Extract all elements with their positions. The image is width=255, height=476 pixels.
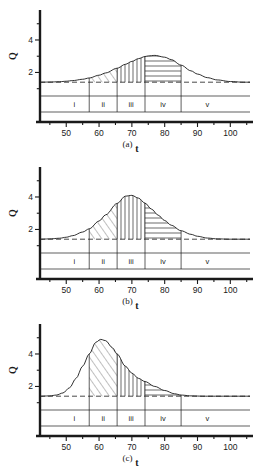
region-label-i: i [74, 100, 76, 109]
x-tick-label: 50 [62, 128, 72, 138]
region-label-ii: ii [101, 257, 105, 266]
region-label-ii: ii [101, 100, 105, 109]
region-iv-hatch [145, 55, 181, 82]
region-label-iv: iv [160, 100, 166, 109]
chart-panel-b: iiiiiiivv245060708090100tQ [0, 157, 255, 315]
y-tick-label: 4 [28, 349, 33, 359]
y-tick-label: 2 [28, 67, 33, 77]
region-label-iv: iv [160, 257, 166, 266]
y-axis-label: Q [7, 366, 18, 374]
region-label-iv: iv [160, 414, 166, 423]
x-tick-label: 60 [94, 442, 104, 452]
y-tick-label: 2 [28, 381, 33, 391]
x-tick-label: 50 [62, 442, 72, 452]
panel-caption-b: (b) [0, 296, 255, 306]
x-tick-label: 100 [223, 128, 237, 138]
x-tick-label: 100 [223, 442, 237, 452]
panel-caption-c: (c) [0, 453, 255, 463]
x-tick-label: 50 [62, 285, 72, 295]
y-axis-label: Q [7, 52, 18, 60]
y-tick-label: 4 [28, 192, 33, 202]
x-tick-label: 80 [160, 442, 170, 452]
x-tick-label: 90 [193, 285, 203, 295]
x-tick-label: 60 [94, 128, 104, 138]
x-tick-label: 70 [127, 442, 137, 452]
y-tick-label: 4 [28, 35, 33, 45]
x-tick-label: 60 [94, 285, 104, 295]
region-label-i: i [74, 414, 76, 423]
region-label-i: i [74, 257, 76, 266]
x-tick-label: 80 [160, 128, 170, 138]
x-tick-label: 80 [160, 285, 170, 295]
x-tick-label: 90 [193, 128, 203, 138]
region-label-iii: iii [129, 414, 134, 423]
chart-svg: iiiiiiivv245060708090100tQ [0, 157, 255, 315]
y-tick-label: 2 [28, 224, 33, 234]
region-label-v: v [205, 257, 209, 266]
x-tick-label: 70 [127, 128, 137, 138]
x-tick-label: 90 [193, 442, 203, 452]
figure-container: iiiiiiivv245060708090100tQ (a) iiiiiiivv… [0, 0, 255, 476]
chart-panel-c: iiiiiiivv245060708090100tQ [0, 314, 255, 472]
region-ii-hatch [89, 203, 117, 239]
region-label-iii: iii [129, 100, 134, 109]
region-ii-hatch [89, 68, 117, 82]
region-iii-hatch [117, 195, 145, 239]
x-tick-label: 100 [223, 285, 237, 295]
region-iii-hatch [117, 57, 145, 83]
panel-caption-a: (a) [0, 139, 255, 149]
chart-panel-a: iiiiiiivv245060708090100tQ [0, 0, 255, 158]
x-tick-label: 70 [127, 285, 137, 295]
region-label-v: v [205, 414, 209, 423]
chart-svg: iiiiiiivv245060708090100tQ [0, 314, 255, 472]
region-label-ii: ii [101, 414, 105, 423]
chart-svg: iiiiiiivv245060708090100tQ [0, 0, 255, 158]
region-label-iii: iii [129, 257, 134, 266]
region-label-v: v [205, 100, 209, 109]
y-axis-label: Q [7, 209, 18, 217]
